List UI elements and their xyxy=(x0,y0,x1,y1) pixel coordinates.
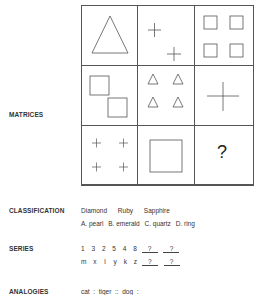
matrix-cell-four-squares xyxy=(195,6,254,66)
matrix-cell-large-triangle xyxy=(82,6,138,66)
two-squares-icon xyxy=(82,66,138,126)
series-row-numbers: 1 3 2 5 4 8 ? ? xyxy=(81,245,179,253)
option-c[interactable]: C. quartz xyxy=(144,220,170,227)
large-cross-icon xyxy=(195,66,254,126)
classification-words: Diamond Ruby Sapphire xyxy=(81,207,170,214)
series-item: m xyxy=(81,258,86,265)
classification-label: CLASSIFICATION xyxy=(9,207,64,214)
option-b[interactable]: B. emerald xyxy=(108,220,139,227)
large-triangle-icon xyxy=(82,6,138,66)
matrix-cell-four-crosses xyxy=(82,126,138,185)
word-ruby: Ruby xyxy=(118,207,133,214)
matrix-cell-large-cross xyxy=(195,66,254,126)
series-item: 5 xyxy=(112,245,116,252)
matrix-cell-answer[interactable]: ? xyxy=(195,126,254,185)
matrix-grid: ? xyxy=(81,5,254,186)
series-blank[interactable]: ? xyxy=(142,258,158,266)
four-small-triangles-icon xyxy=(138,66,195,126)
word-diamond: Diamond xyxy=(81,207,107,214)
matrix-cell-four-triangles xyxy=(138,66,195,126)
four-squares-icon xyxy=(195,6,254,66)
series-row-letters: m x l y k z ? ? xyxy=(81,258,180,266)
series-item: l xyxy=(104,258,105,265)
series-item: 4 xyxy=(123,245,127,252)
series-item: z xyxy=(134,258,137,265)
series-item: x xyxy=(93,258,96,265)
question-mark: ? xyxy=(217,142,227,163)
four-small-crosses-icon xyxy=(82,126,138,185)
two-crosses-icon xyxy=(138,6,195,66)
analogy-text: cat : tiger :: dog : xyxy=(81,288,138,295)
series-blank[interactable]: ? xyxy=(142,245,158,253)
word-sapphire: Sapphire xyxy=(144,207,170,214)
series-item: k xyxy=(124,258,127,265)
series-item: 1 xyxy=(81,245,85,252)
option-a[interactable]: A. pearl xyxy=(81,220,103,227)
analogies-label: ANALOGIES xyxy=(9,288,49,295)
series-item: 8 xyxy=(133,245,137,252)
classification-options: A. pearl B. emerald C. quartz D. ring xyxy=(81,220,195,227)
option-d[interactable]: D. ring xyxy=(176,220,195,227)
matrix-cell-single-square xyxy=(138,126,195,185)
single-square-icon xyxy=(138,126,195,185)
matrix-cell-two-squares xyxy=(82,66,138,126)
series-blank[interactable]: ? xyxy=(163,245,179,253)
series-label: SERIES xyxy=(9,245,33,252)
matrix-cell-two-crosses xyxy=(138,6,195,66)
series-item: 2 xyxy=(102,245,106,252)
series-item: y xyxy=(114,258,117,265)
matrices-label: MATRICES xyxy=(9,111,43,118)
series-blank[interactable]: ? xyxy=(164,258,180,266)
series-item: 3 xyxy=(91,245,95,252)
